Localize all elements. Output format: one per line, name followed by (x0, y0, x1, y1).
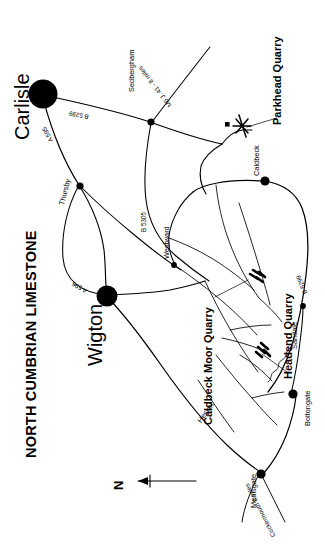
quarry-label-parkhead: Parkhead Quarry (272, 36, 283, 125)
town-dot-westward (171, 262, 177, 268)
road-a595-thursby-loop (63, 185, 107, 295)
town-label-boltongate: Boltongate (304, 391, 311, 426)
road-a595 (44, 102, 107, 295)
town-dot-boltongate (288, 389, 297, 398)
quarry-label-caldbeck-moor: Caldbeck Moor Quarry (203, 307, 214, 425)
north-cumbrian-limestone-map: NORTH CUMBRIAN LIMESTONE Carlisle Wigton… (0, 0, 325, 556)
town-dot-thursby (76, 182, 83, 189)
road-wigton-mealsgate (108, 298, 262, 473)
town-label-westward: Westward (163, 226, 170, 259)
town-label-caldbeck: Caldbeck (253, 145, 260, 176)
town-label-wigton: Wigton (85, 304, 105, 366)
road-westward-spur (169, 192, 193, 266)
quarry-label-headend: Headend Quarry (283, 293, 294, 379)
lane-headend-3 (259, 298, 282, 322)
leader-caldbeck-moor (215, 280, 248, 297)
town-dot-sedbergham (147, 118, 154, 125)
lane-moor-6 (240, 355, 272, 381)
town-dot-caldbeck (260, 176, 269, 185)
north-arrow-head (138, 477, 148, 485)
road-b5305 (145, 123, 209, 281)
north-arrow-label: N (112, 481, 125, 490)
road-label-b5305: B 5305 (141, 212, 147, 232)
lane-moor-7 (216, 355, 277, 425)
lane-moor-8 (252, 392, 284, 398)
lane-moor-2 (169, 238, 254, 290)
town-label-carlisle: Carlisle (12, 73, 32, 140)
town-dot-sandale (300, 303, 306, 309)
quarry-symbol-parkhead (233, 115, 251, 137)
lane-headend-1 (216, 185, 259, 298)
page-title: NORTH CUMBRIAN LIMESTONE (24, 230, 39, 458)
town-label-sedbergham: Sedbergham (128, 50, 135, 92)
road-wigton-east-spur (108, 281, 205, 295)
road-mealsgate-boltongate (263, 396, 296, 474)
road-m6-spur (152, 47, 210, 122)
road-b5299-north (48, 96, 222, 144)
lane-headend-2 (239, 203, 270, 305)
town-square-parkhead (225, 122, 230, 127)
